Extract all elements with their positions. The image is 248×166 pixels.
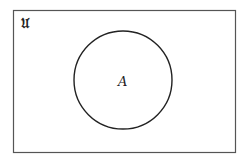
- venn-diagram: 𝔘 A: [0, 0, 248, 166]
- universe-label: 𝔘: [21, 16, 30, 31]
- set-a-label: A: [117, 74, 127, 89]
